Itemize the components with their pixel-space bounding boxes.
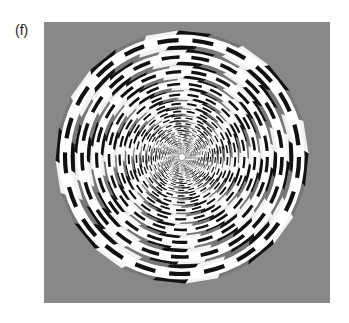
figure-label: (f) xyxy=(15,22,28,38)
fraser-spiral-image xyxy=(44,22,330,303)
spiral-illusion-graphic xyxy=(44,22,330,303)
